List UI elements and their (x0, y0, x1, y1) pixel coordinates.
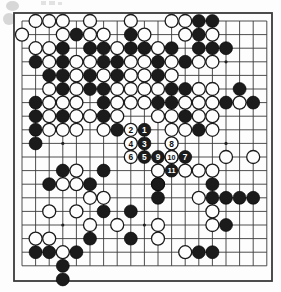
white-stone (138, 28, 151, 41)
go-board[interactable]: 1234567891011 (0, 0, 281, 292)
white-stone (192, 83, 205, 96)
black-stone (29, 246, 42, 259)
white-stone (179, 15, 192, 28)
black-stone (220, 96, 233, 109)
white-stone (152, 232, 165, 245)
white-stone (84, 219, 97, 232)
stones (16, 15, 260, 286)
white-stone (111, 83, 124, 96)
white-stone (29, 42, 42, 55)
black-stone (56, 110, 69, 123)
white-stone (124, 69, 137, 82)
move-number-7: 7 (183, 152, 188, 162)
white-stone (192, 55, 205, 68)
black-stone (220, 42, 233, 55)
black-stone (56, 259, 69, 272)
black-stone (192, 123, 205, 136)
black-stone (56, 83, 69, 96)
black-stone (29, 110, 42, 123)
white-stone (138, 55, 151, 68)
white-stone (165, 110, 178, 123)
move-stone-10[interactable]: 10 (165, 151, 178, 164)
black-stone (56, 164, 69, 177)
white-stone (43, 96, 56, 109)
white-stone (43, 205, 56, 218)
move-stone-6[interactable]: 6 (124, 151, 137, 164)
black-stone (247, 96, 260, 109)
black-stone (70, 28, 83, 41)
white-stone (165, 123, 178, 136)
white-stone (206, 205, 219, 218)
star-point (143, 223, 146, 226)
white-stone (206, 96, 219, 109)
white-stone (179, 246, 192, 259)
white-stone (165, 15, 178, 28)
black-stone (233, 191, 246, 204)
black-stone (124, 205, 137, 218)
black-stone (206, 42, 219, 55)
move-stone-5[interactable]: 5 (138, 151, 151, 164)
black-stone (84, 69, 97, 82)
black-stone (111, 69, 124, 82)
white-stone (152, 42, 165, 55)
white-stone (192, 96, 205, 109)
white-stone (179, 96, 192, 109)
black-stone (192, 15, 205, 28)
move-stone-7[interactable]: 7 (179, 151, 192, 164)
white-stone (70, 96, 83, 109)
white-stone (29, 15, 42, 28)
black-stone (192, 42, 205, 55)
white-stone (70, 164, 83, 177)
move-number-2: 2 (128, 125, 133, 135)
white-stone (43, 15, 56, 28)
black-stone (179, 55, 192, 68)
move-number-5: 5 (142, 152, 147, 162)
white-stone (124, 83, 137, 96)
white-stone (43, 123, 56, 136)
black-stone (206, 178, 219, 191)
white-stone (152, 219, 165, 232)
black-stone (111, 123, 124, 136)
white-stone (165, 69, 178, 82)
move-stone-2[interactable]: 2 (124, 123, 137, 136)
move-number-11: 11 (168, 166, 176, 175)
black-stone (84, 232, 97, 245)
move-stone-8[interactable]: 8 (165, 137, 178, 150)
white-stone (70, 110, 83, 123)
white-stone (206, 164, 219, 177)
move-stone-3[interactable]: 3 (138, 137, 151, 150)
white-stone (111, 219, 124, 232)
white-stone (179, 123, 192, 136)
move-stone-4[interactable]: 4 (124, 137, 137, 150)
black-stone (29, 55, 42, 68)
star-point (61, 142, 64, 145)
white-stone (206, 83, 219, 96)
black-stone (206, 15, 219, 28)
black-stone (152, 69, 165, 82)
go-board-canvas[interactable]: 1234567891011 (0, 0, 281, 292)
black-stone (124, 42, 137, 55)
white-stone (70, 83, 83, 96)
black-stone (152, 96, 165, 109)
white-stone (56, 15, 69, 28)
white-stone (138, 69, 151, 82)
white-stone (192, 191, 205, 204)
move-stone-11[interactable]: 11 (165, 164, 178, 177)
white-stone (84, 110, 97, 123)
black-stone (84, 178, 97, 191)
white-stone (84, 55, 97, 68)
white-stone (124, 96, 137, 109)
black-stone (97, 96, 110, 109)
white-stone (56, 28, 69, 41)
move-stone-9[interactable]: 9 (152, 151, 165, 164)
move-stone-1[interactable]: 1 (138, 123, 151, 136)
black-stone (56, 55, 69, 68)
black-stone (70, 246, 83, 259)
black-stone (138, 42, 151, 55)
white-stone (43, 83, 56, 96)
white-stone (220, 151, 233, 164)
white-stone (111, 42, 124, 55)
black-stone (220, 191, 233, 204)
move-number-9: 9 (156, 152, 161, 162)
white-stone (124, 15, 137, 28)
